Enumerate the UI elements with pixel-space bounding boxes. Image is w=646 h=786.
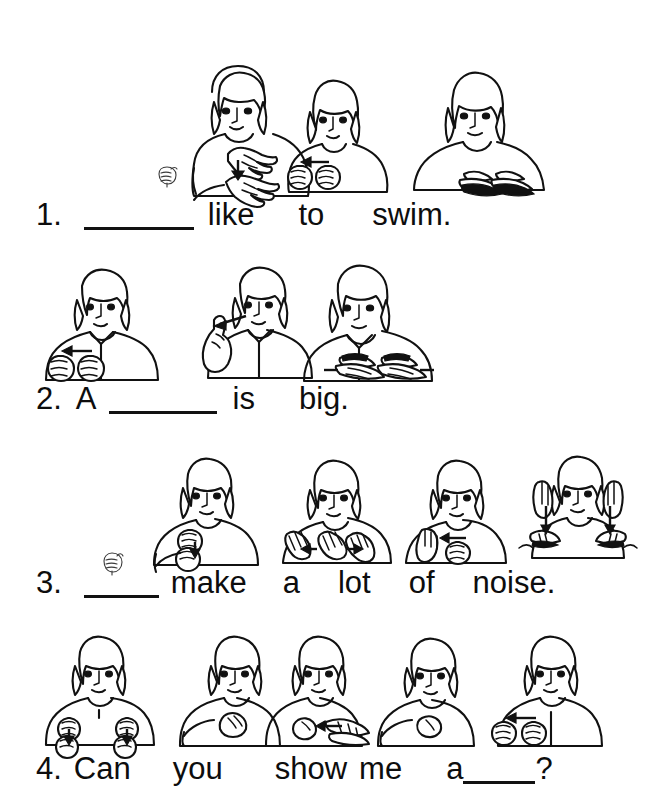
worksheet-page: 1. like to swim. <box>0 0 646 786</box>
exercise-2-word-1: A <box>76 383 97 414</box>
sign-row-2 <box>0 246 646 376</box>
exercise-2-blank[interactable] <box>109 387 217 414</box>
exercise-4-word-4: me <box>359 753 402 784</box>
sign-me <box>370 630 485 746</box>
exercise-1-blank[interactable] <box>84 203 194 230</box>
sign-a-row4 <box>484 626 614 750</box>
exercise-3-word-2: a <box>283 567 300 598</box>
exercise-3-word-5: noise. <box>473 567 556 598</box>
exercise-4-word-3: show <box>275 753 347 784</box>
sign-row-3 <box>0 438 646 563</box>
sign-noise <box>513 444 643 564</box>
exercise-3-blank[interactable] <box>84 571 159 598</box>
exercise-1-word-1: like <box>208 199 255 230</box>
exercise-2-sentence: 2. A is big. <box>0 378 646 414</box>
sign-big <box>286 246 456 381</box>
sign-swim <box>400 54 560 199</box>
exercise-1-sentence: 1. like to swim. <box>0 194 646 230</box>
exercise-3-number: 3. <box>36 567 62 598</box>
sign-a-lot <box>398 450 513 565</box>
exercise-1-number: 1. <box>36 199 62 230</box>
sign-a-row2 <box>40 250 170 380</box>
exercise-2-word-3: big. <box>299 383 349 414</box>
sign-row-4 <box>0 618 646 746</box>
exercise-2-word-2: is <box>233 383 255 414</box>
sign-row-1 <box>0 48 646 198</box>
exercise-1-word-2: to <box>298 199 324 230</box>
sign-can <box>38 624 163 749</box>
sign-make <box>277 448 402 563</box>
exercise-4-word-6: ? <box>535 753 552 784</box>
exercise-4-blank[interactable] <box>463 757 535 784</box>
sign-like <box>285 62 395 192</box>
exercise-3-sentence: 3. make a lot of noise. <box>0 562 646 598</box>
exercise-4-word-1: Can <box>74 753 131 784</box>
exercise-4-word-2: you <box>173 753 223 784</box>
handshape-marker-a <box>152 162 182 192</box>
exercise-3-word-4: of <box>409 567 435 598</box>
exercise-1-word-3: swim. <box>372 199 451 230</box>
exercise-3-word-3: lot <box>338 567 371 598</box>
sign-they <box>140 442 270 567</box>
exercise-2-number: 2. <box>36 383 62 414</box>
exercise-3-word-1: make <box>171 567 247 598</box>
exercise-4-word-5: a <box>446 753 463 784</box>
exercise-4-sentence: 4. Can you show me a ? <box>0 748 646 784</box>
exercise-4-number: 4. <box>36 753 62 784</box>
